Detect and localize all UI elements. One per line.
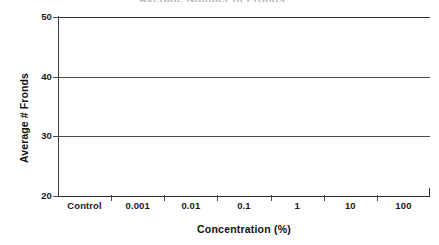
chart-figure: Average Number of Fronds Average # Frond…	[0, 0, 439, 245]
x-tick-label-100: 100	[373, 200, 433, 211]
gridline-30	[58, 136, 430, 137]
x-tick-label-0-001: 0.001	[108, 200, 168, 211]
y-tick-label-20: 20	[26, 190, 52, 201]
x-tick-label-1: 1	[267, 200, 327, 211]
y-axis-line	[58, 16, 59, 197]
y-tick-label-40: 40	[26, 71, 52, 82]
y-tick-mark-30	[53, 136, 59, 137]
chart-title-truncated: Average Number of Fronds	[92, 0, 332, 2]
x-tick-label-10: 10	[320, 200, 380, 211]
y-tick-label-30: 30	[26, 130, 52, 141]
y-tick-mark-50	[53, 17, 59, 18]
x-tick-label-Control: Control	[55, 200, 115, 211]
gridline-20	[58, 196, 430, 197]
gridline-40	[58, 77, 430, 78]
x-tick-label-0-1: 0.1	[214, 200, 274, 211]
plot-area	[58, 17, 430, 196]
x-axis-title: Concentration (%)	[58, 223, 430, 235]
x-axis-tick-labels: Control0.0010.010.1110100	[58, 200, 430, 216]
y-tick-mark-40	[53, 77, 59, 78]
y-tick-mark-20	[53, 196, 59, 197]
y-tick-label-50: 50	[26, 11, 52, 22]
x-tick-label-0-01: 0.01	[161, 200, 221, 211]
y-axis-tick-labels: 50403020	[22, 17, 52, 196]
gridline-50	[58, 17, 430, 18]
